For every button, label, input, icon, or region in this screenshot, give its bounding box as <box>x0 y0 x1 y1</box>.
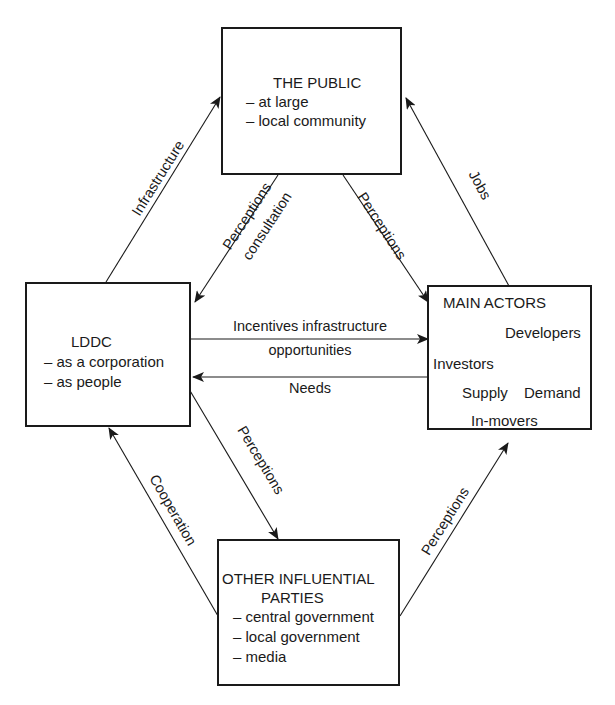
node-item: – as people <box>44 372 122 391</box>
arrow-other-perceptions <box>400 443 508 616</box>
node-title: PARTIES <box>261 588 324 607</box>
node-lddc: LDDC – as a corporation – as people <box>25 282 191 427</box>
edge-label-incentives-1: Incentives infrastructure <box>210 318 410 334</box>
node-title: OTHER INFLUENTIAL <box>222 569 375 588</box>
actor-investors: Investors <box>433 354 494 373</box>
node-title: THE PUBLIC <box>273 73 361 92</box>
edge-label-needs: Needs <box>270 380 350 396</box>
node-main-actors: MAIN ACTORS Developers Investors Supply … <box>427 285 592 430</box>
actor-developers: Developers <box>505 323 581 342</box>
node-item: – local community <box>246 111 366 130</box>
node-item: – central government <box>233 607 374 626</box>
edge-label-incentives-2: opportunities <box>210 342 410 358</box>
node-title: LDDC <box>71 332 112 351</box>
flow-demand: Demand <box>524 383 581 402</box>
node-other-influential-parties: OTHER INFLUENTIAL PARTIES – central gove… <box>217 539 400 686</box>
node-item: – local government <box>233 627 360 646</box>
actor-in-movers: In-movers <box>471 411 538 430</box>
node-item: – at large <box>246 92 309 111</box>
arrow-cooperation <box>109 428 218 616</box>
node-title: MAIN ACTORS <box>443 293 546 312</box>
arrow-infrastructure <box>106 97 220 282</box>
node-item: – as a corporation <box>44 352 164 371</box>
flow-supply: Supply <box>462 383 508 402</box>
node-item: – media <box>233 647 286 666</box>
node-the-public: THE PUBLIC – at large – local community <box>221 27 402 175</box>
